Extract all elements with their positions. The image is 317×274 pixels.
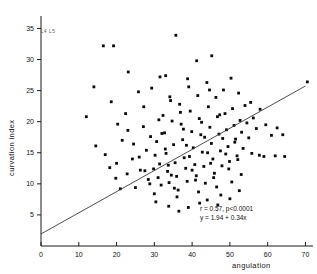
regression-line: [41, 86, 305, 234]
data-point: [230, 181, 233, 184]
data-point: [236, 154, 239, 157]
y-tick-label: 10: [26, 180, 34, 187]
data-point: [201, 151, 204, 154]
x-axis-title: angulation: [232, 261, 271, 270]
data-point: [274, 154, 277, 157]
data-point: [137, 90, 140, 93]
data-point: [195, 59, 198, 62]
data-point: [306, 80, 309, 83]
x-tick-label: 60: [264, 251, 272, 258]
data-point: [249, 101, 252, 104]
y-tick-label: 25: [26, 87, 34, 94]
data-point: [162, 114, 165, 117]
data-point: [252, 117, 255, 120]
equation-annotation: y = 1.94 + 0.34x: [200, 214, 247, 222]
data-point: [170, 174, 173, 177]
data-point: [173, 187, 176, 190]
data-point: [188, 155, 191, 158]
data-point: [153, 192, 156, 195]
y-tick-label: 15: [26, 149, 34, 156]
data-point: [154, 154, 157, 157]
data-point: [231, 107, 234, 110]
data-point: [185, 144, 188, 147]
x-axis-ticks: 010203040506070: [39, 242, 309, 258]
data-point: [196, 94, 199, 97]
specimen-label-note: L4 L5: [41, 29, 55, 34]
x-tick-label: 20: [113, 251, 121, 258]
data-point: [233, 141, 236, 144]
data-point: [92, 85, 95, 88]
data-point: [198, 117, 201, 120]
data-point: [212, 176, 215, 179]
data-point: [195, 174, 198, 177]
x-tick-label: 40: [188, 251, 196, 258]
data-point: [167, 205, 170, 208]
data-point: [258, 154, 261, 157]
y-tick-label: 30: [26, 56, 34, 63]
data-point: [171, 120, 174, 123]
data-point: [157, 118, 160, 121]
data-point: [155, 140, 158, 143]
data-point: [134, 186, 137, 189]
data-point: [165, 152, 168, 155]
data-point: [194, 179, 197, 182]
data-point: [163, 131, 166, 134]
data-point: [189, 110, 192, 113]
data-point: [244, 104, 247, 107]
data-point: [238, 189, 241, 192]
data-point: [124, 112, 127, 115]
data-point: [262, 155, 265, 158]
data-point: [108, 166, 111, 169]
data-point: [172, 143, 175, 146]
data-point: [143, 169, 146, 172]
data-point: [186, 180, 189, 183]
data-point: [228, 160, 231, 163]
data-point: [127, 71, 130, 74]
data-point: [205, 81, 208, 84]
data-point: [210, 142, 213, 145]
data-point: [121, 139, 124, 142]
data-point: [211, 158, 214, 161]
data-point: [213, 172, 216, 175]
data-point: [219, 194, 222, 197]
data-point: [164, 74, 167, 77]
data-point: [139, 169, 142, 172]
data-point: [230, 77, 233, 80]
data-point: [264, 123, 267, 126]
data-point: [202, 165, 205, 168]
data-point: [145, 149, 148, 152]
data-point: [142, 105, 145, 108]
data-point: [187, 85, 190, 88]
data-point: [240, 173, 243, 176]
data-point: [154, 200, 157, 203]
data-point: [204, 182, 207, 185]
data-point: [227, 145, 230, 148]
data-point: [270, 134, 273, 137]
data-point: [234, 138, 237, 141]
data-point: [208, 126, 211, 129]
data-point: [176, 195, 179, 198]
data-point: [115, 162, 118, 165]
data-point: [245, 122, 248, 125]
y-tick-label: 20: [26, 118, 34, 125]
data-point: [210, 54, 213, 57]
data-point: [179, 111, 182, 114]
x-tick-label: 0: [39, 251, 43, 258]
data-point: [160, 184, 163, 187]
x-tick-label: 10: [75, 251, 83, 258]
data-point: [221, 164, 224, 167]
data-point: [199, 133, 202, 136]
data-point: [209, 162, 212, 165]
plot-canvas: 5101520253035 010203040506070 curvation …: [0, 0, 317, 274]
data-point: [247, 136, 250, 139]
data-point: [190, 130, 193, 133]
data-point: [167, 164, 170, 167]
data-point: [193, 163, 196, 166]
data-point: [131, 158, 134, 161]
data-point: [218, 113, 221, 116]
data-point: [183, 156, 186, 159]
data-point: [255, 127, 258, 130]
data-point: [187, 206, 190, 209]
y-axis-ticks: 5101520253035: [26, 25, 41, 218]
data-point: [132, 143, 135, 146]
